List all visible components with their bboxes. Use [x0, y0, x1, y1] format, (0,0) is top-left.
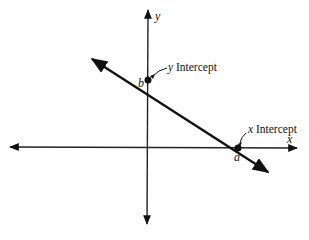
y-axis	[147, 10, 148, 224]
y-intercept-callout-arrow	[153, 68, 167, 76]
y-axis-label: y	[154, 9, 161, 23]
x-intercept-callout-arrow	[240, 133, 246, 143]
y-intercept-point	[145, 77, 152, 84]
a-label: a	[234, 150, 240, 164]
coordinate-diagram: y x y Intercept x Intercept b a	[0, 0, 309, 240]
b-label: b	[138, 76, 144, 90]
x-intercept-label: x Intercept	[247, 123, 298, 136]
y-intercept-label: y Intercept	[167, 61, 218, 74]
graph-line	[92, 59, 268, 172]
x-axis	[10, 147, 297, 148]
